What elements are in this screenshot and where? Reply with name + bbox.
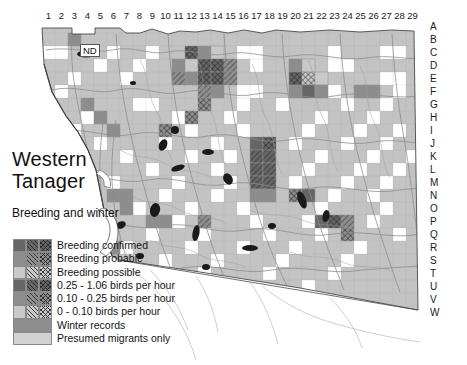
atlas-cell-7O (120, 202, 133, 215)
atlas-cell-empty-28L (393, 163, 406, 176)
atlas-cell-12H (185, 111, 198, 124)
legend-swatch-3-0 (13, 279, 26, 292)
map-screenshot: 1234567891011121314151617181920212223242… (0, 0, 467, 365)
atlas-cell-empty-27M (380, 176, 393, 189)
atlas-cell-empty-23D (328, 59, 341, 72)
legend-row-0: Breeding confirmed (13, 239, 175, 252)
atlas-cell-empty-27E (380, 72, 393, 85)
legend-swatch-4-1 (26, 292, 39, 305)
row-label-H: H (430, 112, 444, 123)
atlas-cell-empty-24M (341, 176, 354, 189)
atlas-cell-empty-22K (315, 150, 328, 163)
legend-row-3: 0.25 - 1.06 birds per hour (13, 279, 175, 292)
legend-swatch-5-2 (39, 305, 52, 318)
map-legend: Breeding confirmedBreeding probableBreed… (13, 239, 175, 345)
atlas-cell-4G (81, 98, 94, 111)
atlas-cell-empty-18T (263, 267, 276, 280)
atlas-cell-empty-27O (380, 202, 393, 215)
atlas-cell-14E (211, 72, 224, 85)
atlas-cell-empty-17C (250, 46, 263, 59)
atlas-cell-17K (250, 150, 263, 163)
atlas-cell-empty-21P (302, 215, 315, 228)
legend-swatch-7 (13, 332, 52, 345)
legend-swatch-group-4 (13, 292, 52, 305)
row-axis: ABCDEFGHIJKLMNOPQRSTUVW (430, 0, 450, 365)
legend-swatch-5-0 (13, 305, 26, 318)
atlas-cell-18J (263, 137, 276, 150)
legend-label-3: 0.25 - 1.06 birds per hour (57, 279, 175, 292)
atlas-cell-empty-8G (133, 98, 146, 111)
atlas-cell-empty-2F (55, 85, 68, 98)
atlas-cell-7N (120, 189, 133, 202)
row-label-R: R (430, 242, 444, 253)
legend-swatch-0-2 (39, 239, 52, 252)
atlas-cell-empty-11M (172, 176, 185, 189)
atlas-cell-15E (224, 72, 237, 85)
legend-label-5: 0 - 0.10 birds per hour (57, 305, 160, 318)
atlas-cell-empty-5D (94, 59, 107, 72)
legend-swatch-group-5 (13, 305, 52, 318)
atlas-cell-empty-28F (393, 85, 406, 98)
row-label-B: B (430, 34, 444, 45)
atlas-cell-empty-16O (237, 202, 250, 215)
atlas-cell-18N (263, 189, 276, 202)
atlas-cell-22F (315, 85, 328, 98)
atlas-cell-14C (211, 46, 224, 59)
atlas-cell-17M (250, 176, 263, 189)
row-label-S: S (430, 255, 444, 266)
atlas-cell-20D (289, 59, 302, 72)
legend-label-7: Presumed migrants only (57, 332, 170, 345)
row-label-T: T (430, 268, 444, 279)
row-label-I: I (430, 125, 444, 136)
legend-swatch-3-2 (39, 279, 52, 292)
legend-swatch-5-1 (26, 305, 39, 318)
atlas-cell-empty-28Q (393, 228, 406, 241)
row-label-J: J (430, 138, 444, 149)
atlas-cell-empty-15K (224, 150, 237, 163)
legend-label-2: Breeding possible (57, 266, 140, 279)
atlas-cell-25F (354, 85, 367, 98)
row-label-W: W (430, 307, 444, 318)
legend-row-7: Presumed migrants only (13, 332, 175, 345)
atlas-cell-empty-7K (120, 150, 133, 163)
row-label-O: O (430, 203, 444, 214)
atlas-cell-empty-17D (250, 59, 263, 72)
legend-label-1: Breeding probable (57, 252, 143, 265)
legend-swatch-2-1 (26, 266, 39, 279)
row-label-A: A (430, 21, 444, 32)
legend-swatch-0-0 (13, 239, 26, 252)
atlas-cell-empty-20M (289, 176, 302, 189)
atlas-cell-empty-23N (328, 189, 341, 202)
row-label-M: M (430, 177, 444, 188)
row-label-F: F (430, 86, 444, 97)
atlas-cell-empty-14N (211, 189, 224, 202)
atlas-cell-empty-16I (237, 124, 250, 137)
atlas-cell-12E (185, 72, 198, 85)
atlas-cell-empty-4H (81, 111, 94, 124)
legend-swatch-1-2 (39, 252, 52, 265)
legend-label-0: Breeding confirmed (57, 239, 148, 252)
atlas-cell-24Q (341, 228, 354, 241)
legend-swatch-6 (13, 319, 52, 332)
legend-swatch-0-1 (26, 239, 39, 252)
legend-row-6: Winter records (13, 319, 175, 332)
nd-label: ND (80, 44, 100, 57)
legend-swatch-4-0 (13, 292, 26, 305)
legend-swatch-group-1 (13, 252, 52, 265)
atlas-cell-empty-22H (315, 111, 328, 124)
atlas-cell-empty-9G (146, 98, 159, 111)
legend-label-6: Winter records (57, 319, 125, 332)
legend-row-2: Breeding possible (13, 266, 175, 279)
atlas-cell-empty-8D (133, 59, 146, 72)
atlas-cell-26F (367, 85, 380, 98)
row-label-D: D (430, 60, 444, 71)
atlas-cell-14D (211, 59, 224, 72)
legend-swatch-group-0 (13, 239, 52, 252)
atlas-cell-13E (198, 72, 211, 85)
legend-swatch-3-1 (26, 279, 39, 292)
atlas-cell-empty-21I (302, 124, 315, 137)
atlas-cell-empty-14L (211, 163, 224, 176)
atlas-cell-13C (198, 46, 211, 59)
atlas-cell-empty-12R (185, 241, 198, 254)
legend-swatch-1-0 (13, 252, 26, 265)
